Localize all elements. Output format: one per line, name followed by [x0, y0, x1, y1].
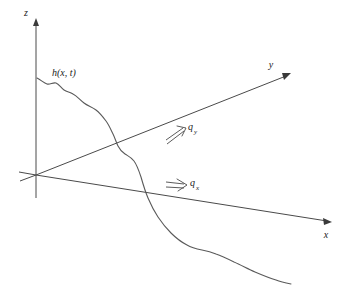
q-x-label-symbol: q	[190, 177, 195, 188]
flux-arrow-q-y: q y	[166, 121, 198, 144]
axis-group-z: z	[23, 7, 39, 198]
q-x-arrow-shaft-lower	[166, 187, 184, 188]
diagram-canvas: z y x h(x, t) q y	[0, 0, 345, 297]
x-axis-arrowhead	[323, 218, 332, 225]
axis-group-x: x	[19, 172, 332, 240]
x-axis-negative-stub	[19, 172, 36, 175]
z-axis-label: z	[23, 7, 28, 18]
coordinate-diagram-svg: z y x h(x, t) q y	[0, 0, 345, 297]
q-x-arrow-shaft-upper	[166, 182, 184, 184]
q-y-label-symbol: q	[188, 121, 193, 132]
curve-label-h: h(x, t)	[52, 67, 77, 79]
z-axis-arrowhead	[33, 18, 39, 26]
y-axis-negative-stub	[20, 175, 36, 181]
y-axis-arrowhead	[282, 73, 291, 80]
q-y-label-subscript: y	[193, 128, 198, 136]
q-x-arrowhead	[177, 179, 187, 191]
y-axis-label: y	[268, 59, 274, 70]
q-x-label-subscript: x	[195, 184, 200, 192]
flux-arrow-q-x: q x	[166, 177, 200, 192]
x-axis-label: x	[323, 229, 329, 240]
y-axis-line	[36, 76, 286, 175]
